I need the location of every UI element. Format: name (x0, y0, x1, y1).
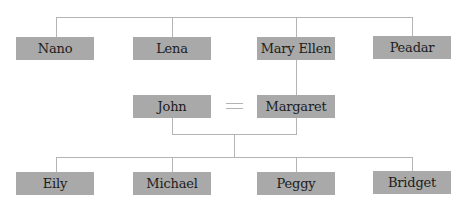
drop-line-michael (172, 157, 173, 172)
drop-line-peggy (296, 157, 297, 172)
drop-line-lena (172, 17, 173, 37)
person-peadar: Peadar (373, 36, 451, 59)
person-michael: Michael (133, 172, 211, 195)
drop-line-peadar (412, 17, 413, 36)
family-tree-diagram: Nano Lena Mary Ellen Peadar John Margare… (0, 0, 462, 210)
person-lena: Lena (133, 37, 211, 60)
sibling-connector-children (56, 157, 413, 158)
person-eily: Eily (16, 172, 94, 195)
drop-line-margaret (296, 118, 297, 134)
person-margaret: Margaret (257, 95, 335, 118)
descent-line (234, 134, 235, 157)
marriage-symbol-bottom-bar (226, 108, 243, 109)
sibling-connector-top (56, 17, 413, 18)
drop-line-john (172, 118, 173, 134)
person-john: John (133, 95, 211, 118)
drop-line-eily (56, 157, 57, 172)
marriage-symbol-top-bar (226, 103, 243, 104)
person-peggy: Peggy (257, 172, 335, 195)
person-mary-ellen: Mary Ellen (257, 37, 335, 60)
person-bridget: Bridget (373, 171, 451, 194)
person-nano: Nano (16, 37, 94, 60)
drop-line-nano (56, 17, 57, 37)
drop-line-bridget (412, 157, 413, 171)
